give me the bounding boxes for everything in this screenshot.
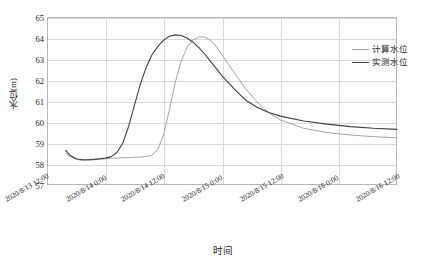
y-tick-61: 61 bbox=[36, 97, 45, 107]
y-tick-59: 59 bbox=[36, 139, 45, 149]
legend: 计算水位 实测水位 bbox=[352, 43, 408, 69]
y-tick-64: 64 bbox=[36, 34, 45, 44]
y-axis-label: 水位(m) bbox=[6, 78, 19, 109]
y-tick-65: 65 bbox=[36, 13, 45, 23]
legend-item-1: 实测水位 bbox=[352, 56, 408, 69]
series-lines bbox=[0, 0, 446, 264]
legend-item-0: 计算水位 bbox=[352, 43, 408, 56]
y-tick-58: 58 bbox=[36, 160, 45, 170]
legend-swatch-0 bbox=[352, 49, 369, 50]
legend-swatch-1 bbox=[352, 62, 369, 63]
y-tick-60: 60 bbox=[36, 118, 45, 128]
y-tick-62: 62 bbox=[36, 76, 45, 86]
legend-label-0: 计算水位 bbox=[372, 43, 408, 56]
y-tick-63: 63 bbox=[36, 55, 45, 65]
x-axis-label: 时间 bbox=[0, 243, 446, 257]
legend-label-1: 实测水位 bbox=[372, 56, 408, 69]
chart-container: 65 64 63 62 61 60 59 58 57 水位(m) 2020/8/… bbox=[0, 0, 446, 264]
